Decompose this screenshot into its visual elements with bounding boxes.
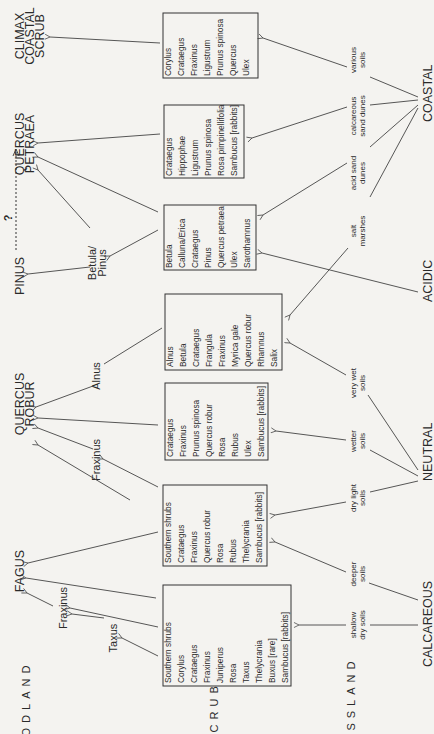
species-label: Thelycrania bbox=[254, 640, 264, 683]
svg-text:acid sand: acid sand bbox=[349, 156, 358, 190]
species-label: Myrica gale bbox=[230, 324, 240, 367]
source-coastal: COASTAL bbox=[421, 65, 434, 122]
zone-scrub: SCRUB bbox=[208, 681, 220, 734]
species-label: Sambucus [rabbits] bbox=[229, 105, 239, 176]
svg-text:soils: soils bbox=[358, 52, 367, 68]
intermediate-fraxinus-robur: Fraxinus bbox=[90, 438, 102, 481]
species-label: Fraxinus bbox=[189, 44, 199, 76]
species-label: Rubus bbox=[228, 539, 238, 563]
svg-text:PETRAEA: PETRAEA bbox=[23, 114, 37, 173]
svg-text:wetter: wetter bbox=[349, 430, 358, 453]
svg-text:SCRUB: SCRUB bbox=[33, 14, 47, 58]
species-coastal-various: Corylus Crataegus Fraxinus Ligustrum Pru… bbox=[163, 18, 251, 76]
svg-text:various: various bbox=[349, 47, 358, 73]
species-label: Crataegus bbox=[189, 645, 199, 683]
species-label: Prunus spinosa bbox=[191, 399, 201, 457]
svg-text:ROBUR: ROBUR bbox=[23, 381, 37, 426]
species-label: Ulex bbox=[229, 251, 239, 268]
species-label: Quercus robur bbox=[204, 404, 214, 457]
species-wetter: Crataegus Fraxinus Prunus spinosa Quercu… bbox=[165, 386, 266, 457]
species-label: Quercus robur bbox=[243, 314, 253, 367]
soil-very-wet: very wet soils bbox=[349, 367, 367, 398]
source-arrows bbox=[252, 38, 418, 625]
species-label: Sambucus [rabbits] bbox=[256, 386, 266, 457]
svg-text:shallow: shallow bbox=[349, 611, 358, 638]
species-label: Rhamnus bbox=[256, 331, 266, 367]
species-label: Juniperus bbox=[215, 647, 225, 683]
species-label: Taxus bbox=[241, 661, 251, 683]
species-label: Sarothamnus bbox=[242, 219, 252, 268]
species-label: Calluna/Erica bbox=[177, 218, 187, 268]
species-label: Quercus bbox=[228, 45, 238, 76]
zone-woodland: WOODLAND bbox=[20, 661, 32, 734]
species-label: Buxus [rare] bbox=[267, 638, 277, 683]
species-label: Quercus petraea bbox=[216, 206, 226, 268]
svg-text:soils: soils bbox=[358, 433, 367, 449]
species-label: Ulex bbox=[241, 59, 251, 76]
species-acidic: Betula Calluna/Erica Crataegus Pinus Que… bbox=[164, 206, 252, 268]
svg-text:salt: salt bbox=[349, 224, 358, 237]
species-label: Crataegus bbox=[176, 525, 186, 563]
species-dry-light-deeper: Southern shrubs Crataegus Fraxinus Querc… bbox=[163, 492, 264, 563]
species-label: Ligustrum bbox=[190, 139, 200, 176]
species-label: Ulex bbox=[243, 440, 253, 457]
species-label: Crataegus bbox=[176, 38, 186, 76]
species-label: Ligustrum bbox=[202, 39, 212, 76]
species-very-wet: Alnus Betula Crataegus Frangula Fraxinus… bbox=[165, 314, 279, 367]
svg-text:marshes: marshes bbox=[358, 216, 367, 247]
species-label: Crataegus bbox=[190, 230, 200, 268]
species-label: Corylus bbox=[163, 48, 173, 76]
climax-coastal-scrub: CLIMAX COASTAL SCRUB bbox=[13, 7, 47, 64]
species-label: Salix bbox=[269, 348, 279, 367]
climax-quercus-petraea: QUERCUS PETRAEA bbox=[13, 113, 37, 176]
species-shallow-dry: Southern shrubs Corylus Crataegus Fraxin… bbox=[163, 612, 290, 683]
svg-text:WOODLAND: WOODLAND bbox=[20, 661, 32, 734]
intermediate-betula-pinus: Betula/ Pinus bbox=[86, 245, 108, 280]
species-label: Pinus bbox=[203, 247, 213, 268]
species-label: Prunus spinosa bbox=[203, 118, 213, 176]
intermediate-taxus: Taxus bbox=[107, 623, 119, 652]
species-label: Fraxinus bbox=[217, 335, 227, 367]
species-label: Rosa pimpinellifolia bbox=[216, 104, 226, 176]
species-label: Southern shrubs bbox=[163, 622, 173, 683]
species-label: Sambucus [rabbits] bbox=[254, 492, 264, 563]
species-label: Rosa bbox=[228, 663, 238, 683]
svg-text:Pinus: Pinus bbox=[96, 249, 108, 277]
soil-wetter: wetter soils bbox=[349, 430, 367, 453]
svg-text:GRASSLAND: GRASSLAND bbox=[345, 657, 357, 734]
climax-quercus-robur: QUERCUS ROBUR bbox=[13, 373, 37, 436]
species-label: Frangula bbox=[204, 334, 214, 367]
svg-text:sand dunes: sand dunes bbox=[358, 95, 367, 136]
species-label: Southern shrubs bbox=[163, 502, 173, 563]
svg-text:dry light: dry light bbox=[349, 483, 358, 512]
succession-arrows bbox=[26, 37, 162, 656]
soil-shallow-dry: shallow dry soils bbox=[349, 610, 367, 639]
zone-grassland: GRASSLAND bbox=[345, 657, 357, 734]
species-label: Betula bbox=[178, 343, 188, 367]
species-label: Rubus bbox=[230, 433, 240, 457]
species-label: Alnus bbox=[165, 346, 175, 367]
soil-deeper: deeper soils bbox=[349, 561, 367, 586]
svg-text:very wet: very wet bbox=[349, 367, 358, 398]
species-label: Sambucus [rabbits] bbox=[280, 612, 290, 683]
svg-text:soils: soils bbox=[358, 490, 367, 506]
climax-pinus: PINUS bbox=[13, 257, 27, 295]
source-calcareous: CALCAREOUS bbox=[421, 581, 434, 667]
species-label: Fraxinus bbox=[189, 531, 199, 563]
svg-text:soils: soils bbox=[358, 566, 367, 582]
soil-salt-marshes: salt marshes bbox=[349, 216, 367, 247]
intermediate-fraxinus-fagus: Fraxinus bbox=[57, 586, 69, 629]
svg-text:dunes: dunes bbox=[358, 162, 367, 184]
soil-calcareous-dunes: calcareous sand dunes bbox=[349, 95, 367, 136]
species-label: Betula bbox=[164, 244, 174, 268]
species-label: Crataegus bbox=[165, 419, 175, 457]
svg-text:deeper: deeper bbox=[349, 561, 358, 586]
question-mark: ? bbox=[2, 214, 14, 221]
svg-text:SCRUB: SCRUB bbox=[208, 681, 220, 734]
soil-acid-dunes: acid sand dunes bbox=[349, 156, 367, 190]
soil-various: various soils bbox=[349, 47, 367, 73]
svg-text:dry soils: dry soils bbox=[358, 610, 367, 639]
species-label: Corylus bbox=[176, 655, 186, 683]
species-label: Hippophae bbox=[177, 135, 187, 176]
svg-text:soils: soils bbox=[358, 375, 367, 391]
